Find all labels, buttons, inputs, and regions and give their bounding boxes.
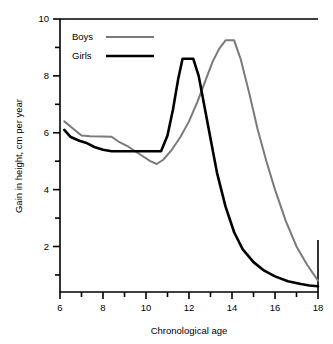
x-tick-label-14: 14 xyxy=(227,302,238,313)
data-series-group xyxy=(64,40,318,286)
x-tick-label-10: 10 xyxy=(141,302,152,313)
y-tick-label-2: 2 xyxy=(44,241,49,252)
series-line-boys xyxy=(64,40,318,280)
x-tick-label-6: 6 xyxy=(57,302,62,313)
x-tick-label-8: 8 xyxy=(100,302,105,313)
y-tick-label-10: 10 xyxy=(38,13,49,24)
series-line-girls xyxy=(64,59,318,287)
chart-canvas: 246810 681012141618 BoysGirls Chronologi… xyxy=(0,0,333,344)
y-tick-label-4: 4 xyxy=(44,184,49,195)
x-axis-tick-labels: 681012141618 xyxy=(57,302,323,313)
y-tick-label-8: 8 xyxy=(44,70,49,81)
x-tick-label-12: 12 xyxy=(184,302,195,313)
legend-label-girls: Girls xyxy=(72,50,92,61)
chart-legend: BoysGirls xyxy=(72,31,154,61)
y-axis-ticks xyxy=(53,19,60,275)
x-tick-label-18: 18 xyxy=(313,302,324,313)
x-tick-label-16: 16 xyxy=(270,302,281,313)
legend-label-boys: Boys xyxy=(72,31,93,42)
y-axis-tick-labels: 246810 xyxy=(38,13,49,252)
y-tick-label-6: 6 xyxy=(44,127,49,138)
x-axis-title: Chronological age xyxy=(151,325,228,336)
x-axis-ticks xyxy=(60,292,318,299)
y-axis-title: Gain in height, cm per year xyxy=(13,99,24,213)
growth-velocity-chart: 246810 681012141618 BoysGirls Chronologi… xyxy=(0,0,333,344)
